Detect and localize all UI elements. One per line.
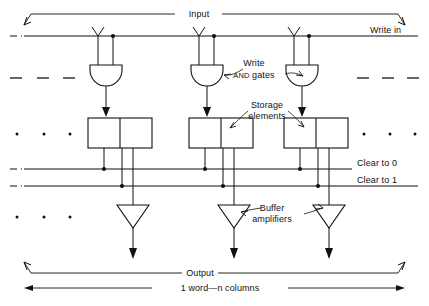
input-arrow-1 [92, 27, 104, 36]
input-label: Input [189, 9, 210, 19]
word-width-prefix: 1 word— [181, 283, 218, 293]
output-label: Output [186, 268, 214, 278]
junction-dot [212, 34, 216, 38]
word-width-suffix: columns [223, 283, 260, 293]
write-in-label: Write in [370, 25, 401, 35]
clear-to-0-label: Clear to 0 [357, 158, 397, 168]
diagram-canvas [0, 0, 429, 306]
column-1-group [88, 27, 152, 259]
memory-array-diagram: Input Write in Clear to 0 Clear to 1 Wri… [0, 0, 429, 306]
storage-elements-line2: elements [248, 111, 285, 121]
junction-dot [307, 34, 311, 38]
column-3-group [284, 27, 348, 259]
buffer-amplifier-2 [218, 205, 250, 228]
gates-word: gates [250, 70, 275, 80]
junction-dot [111, 34, 115, 38]
input-arrow-2 [193, 27, 205, 36]
storage-elements-line1: Storage [251, 100, 283, 110]
buffer-amplifiers-line1: Buffer [260, 203, 284, 213]
input-bracket [24, 14, 405, 25]
write-and-gates-line2: AND gates [233, 70, 274, 81]
clear-to-1-label: Clear to 1 [357, 175, 397, 185]
ellipsis-dots-buffer-row [16, 216, 72, 219]
output-bracket [24, 262, 405, 273]
and-gate-1 [90, 65, 122, 86]
input-arrow-3 [288, 27, 300, 36]
buffer-amplifier-1 [117, 205, 149, 228]
and-gate-2 [191, 65, 223, 86]
write-and-gates-line1: Write [243, 58, 264, 68]
buffer-amplifiers-line2: amplifiers [252, 214, 292, 224]
word-width-label: 1 word—n columns [181, 283, 260, 293]
and-word: AND [233, 71, 249, 80]
